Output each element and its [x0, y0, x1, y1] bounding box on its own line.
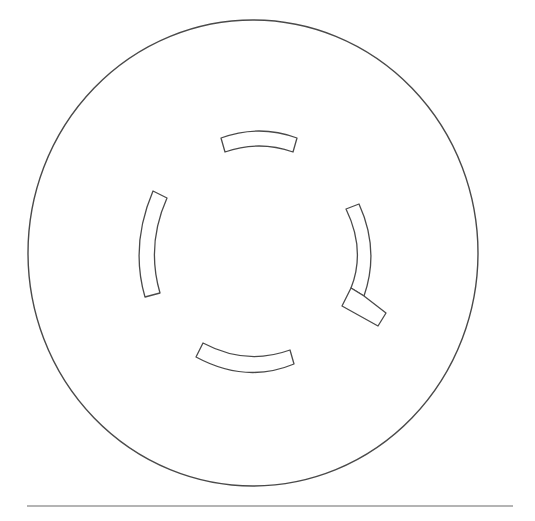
figure-caption — [27, 514, 507, 521]
receptacle-diagram — [0, 0, 535, 521]
slot-left — [139, 191, 167, 297]
receptacle-outline — [28, 20, 478, 486]
slot-top — [221, 131, 297, 152]
slot-right — [346, 204, 371, 296]
slot-bottom — [196, 343, 294, 373]
